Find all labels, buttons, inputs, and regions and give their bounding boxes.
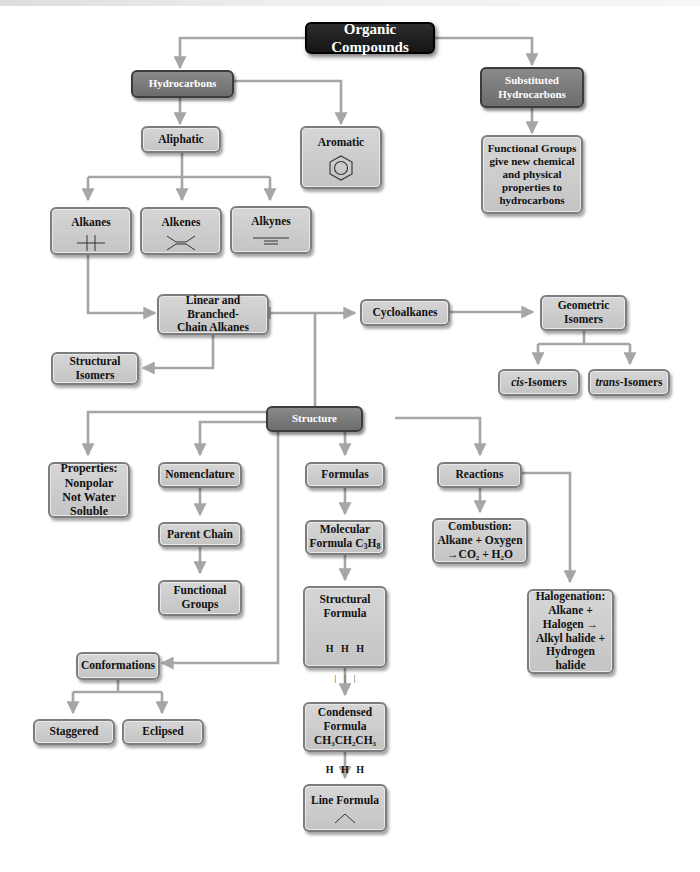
cis-prefix: cis [511, 376, 524, 390]
node-linear-branched-alkanes: Linear and Branched- Chain Alkanes [157, 294, 269, 335]
single-bond-icon [75, 234, 107, 252]
node-label-line: Formula [324, 607, 367, 621]
node-label: Alkynes [251, 215, 291, 229]
node-properties: Properties: Nonpolar Not Water Soluble [48, 462, 130, 518]
node-conformations: Conformations [76, 652, 160, 680]
node-structure: Structure [266, 406, 363, 432]
node-label-line: Not Water [62, 490, 115, 504]
zigzag-line-icon [333, 812, 357, 824]
trans-prefix: trans [595, 376, 619, 390]
node-label: Line Formula [311, 794, 379, 808]
node-aliphatic: Aliphatic [141, 126, 221, 153]
node-label-line: Groups [182, 598, 219, 612]
node-label-line: Combustion: [448, 520, 512, 534]
node-label: Formulas [321, 468, 368, 482]
node-label-line: Geometric [558, 299, 610, 313]
node-label: Parent Chain [167, 528, 233, 542]
node-label-line: properties to [502, 181, 562, 194]
node-functional-groups: Functional Groups [158, 580, 242, 616]
node-label: Alkenes [162, 216, 201, 230]
node-label-line: Isomers [564, 313, 603, 327]
node-label-line: Linear and Branched- [159, 294, 267, 322]
node-label: Reactions [456, 468, 504, 482]
node-label-line: Chain Alkanes [177, 321, 249, 335]
node-label-line: Functional [173, 584, 226, 598]
node-organic-compounds: Organic Compounds [305, 22, 435, 54]
node-label-line: Hydrocarbons [498, 88, 566, 101]
trans-suffix: -Isomers [620, 376, 663, 390]
double-bond-icon [165, 234, 197, 252]
node-functional-groups-note: Functional Groups give new chemical and … [481, 135, 583, 214]
node-cis-isomers: cis-Isomers [498, 369, 580, 396]
node-line-formula: Line Formula [303, 784, 387, 832]
node-label-line: Condensed [318, 706, 372, 720]
node-label-line: Substituted [505, 74, 559, 87]
node-label-line: Halogenation: [536, 590, 606, 604]
node-structural-isomers: Structural Isomers [51, 352, 139, 385]
node-alkynes: Alkynes [230, 206, 312, 254]
node-label-line: Functional Groups [488, 142, 577, 155]
node-parent-chain: Parent Chain [158, 522, 242, 547]
node-label: Staggered [50, 725, 99, 739]
node-eclipsed: Eclipsed [122, 719, 204, 745]
node-label-line: Formula [324, 720, 367, 734]
node-structural-formula: Structural Formula H H H | | | H–C–C–C–H… [303, 586, 387, 668]
node-label: Conformations [81, 659, 155, 673]
node-combustion: Combustion: Alkane + Oxygen →CO₂ + H₂O [432, 518, 528, 564]
node-substituted-hydrocarbons: Substituted Hydrocarbons [480, 67, 584, 108]
node-label-line: Alkane + Oxygen [437, 534, 522, 548]
node-label-line: Molecular [320, 523, 370, 537]
cis-suffix: -Isomers [524, 376, 567, 390]
node-cycloalkanes: Cycloalkanes [360, 299, 450, 326]
node-label: Cycloalkanes [372, 306, 437, 320]
molecular-formula-text: Formula C3H8 [310, 537, 381, 552]
node-label-line: halide [555, 659, 585, 673]
node-label-line: Structural [319, 593, 370, 607]
node-label: Aromatic [318, 136, 364, 150]
node-label-line: Nonpolar [65, 476, 114, 490]
concept-map: Organic Compounds Hydrocarbons Substitut… [0, 0, 700, 872]
node-label-line: Structural [69, 355, 120, 369]
node-label: Hydrocarbons [149, 77, 217, 90]
benzene-ring-icon [327, 154, 355, 182]
node-condensed-formula: Condensed Formula CH₃CH₂CH₃ [303, 702, 387, 752]
node-label-line: hydrocarbons [499, 194, 564, 207]
node-staggered: Staggered [33, 719, 115, 745]
node-hydrocarbons: Hydrocarbons [131, 70, 234, 98]
node-label-line: give new chemical [490, 155, 575, 168]
node-molecular-formula: Molecular Formula C3H8 [305, 520, 385, 555]
node-label: Structure [292, 412, 337, 425]
node-alkanes: Alkanes [50, 207, 132, 255]
node-geometric-isomers: Geometric Isomers [540, 295, 627, 331]
node-label-line: Properties: [60, 461, 117, 475]
node-label-line: Soluble [70, 504, 108, 518]
node-label-line: Alkyl halide + [536, 632, 605, 646]
node-label-line: Halogen → [543, 618, 598, 632]
node-label: Aliphatic [158, 133, 203, 147]
node-label-line: Alkane + [548, 604, 593, 618]
node-alkenes: Alkenes [140, 207, 222, 255]
node-trans-isomers: trans-Isomers [588, 369, 670, 396]
node-nomenclature: Nomenclature [158, 462, 242, 488]
node-label: Nomenclature [165, 468, 234, 482]
node-label: Eclipsed [142, 725, 184, 739]
node-formulas: Formulas [305, 462, 385, 488]
node-label: Alkanes [71, 216, 111, 230]
node-label-line: Hydrogen [546, 645, 595, 659]
node-label-line: and physical [503, 168, 562, 181]
node-halogenation: Halogenation: Alkane + Halogen → Alkyl h… [527, 589, 614, 674]
condensed-formula-text: CH₃CH₂CH₃ [314, 734, 376, 748]
node-label: Organic Compounds [307, 20, 433, 56]
node-label-line: Isomers [76, 369, 115, 383]
node-label-line: →CO₂ + H₂O [447, 548, 513, 562]
node-reactions: Reactions [437, 462, 522, 488]
triple-bond-icon [252, 233, 290, 247]
node-aromatic: Aromatic [300, 126, 382, 189]
